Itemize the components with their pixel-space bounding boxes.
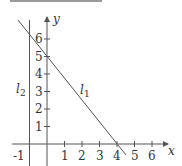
y-tick-label: 6 [35,32,43,46]
y-axis-label: y [52,12,60,26]
x-tick-label: 4 [113,149,121,163]
y-tick-label: 3 [35,85,43,99]
y-tick-label: 4 [35,67,43,81]
x-tick-label: -1 [13,149,25,163]
x-tick-label: 1 [61,149,69,163]
label-l2: l 2 [16,82,26,98]
y-tick-label: 1 [35,120,43,134]
svg-text:2: 2 [20,88,26,98]
x-tick-label: 2 [78,149,86,163]
label-l1: l 1 [80,83,90,99]
coordinate-plane: -1 1 2 3 4 5 6 1 2 3 4 5 6 x y l 1 l 2 [0,0,182,166]
y-tick-label: 5 [35,50,43,64]
y-tick-label: 2 [35,102,43,116]
x-tick-label: 5 [131,149,139,163]
x-axis-label: x [168,144,175,158]
x-tick-label: 6 [148,149,156,163]
svg-text:1: 1 [84,89,90,99]
x-tick-label: 3 [96,149,104,163]
